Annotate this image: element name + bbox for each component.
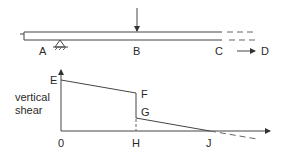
y-axis-label-line1: vertical (15, 91, 50, 103)
y-axis-label-line2: shear (15, 104, 43, 116)
shear-segment-EF (61, 80, 136, 93)
shear-extension (210, 131, 257, 139)
label-H: H (132, 137, 140, 149)
pin-support-icon (53, 40, 68, 50)
diagram-canvas: A B C D E F G 0 H J vertical shear (0, 0, 285, 153)
label-F: F (141, 88, 148, 100)
shear-segment-GJ (136, 118, 210, 131)
label-B: B (133, 45, 140, 57)
label-A: A (39, 45, 47, 57)
label-G: G (141, 106, 150, 118)
label-D: D (261, 45, 269, 57)
label-J: J (206, 137, 212, 149)
shear-diagram: E F G 0 H J vertical shear (15, 70, 270, 149)
label-origin: 0 (58, 137, 64, 149)
beam-diagram: A B C D (20, 8, 269, 57)
label-C: C (215, 45, 223, 57)
label-E: E (50, 74, 57, 86)
